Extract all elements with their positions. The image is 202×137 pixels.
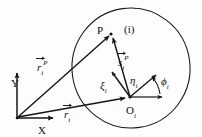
axis-xi-label: ξi (100, 76, 107, 95)
point-p-marker (109, 32, 112, 35)
angle-phi-label: ϕi (161, 72, 169, 91)
vector-ri-label: ri (64, 105, 70, 124)
vector-si-p-label: siP (118, 53, 129, 72)
body-index-label: (i) (124, 20, 134, 36)
figure-diagram: Y X P (i) Oi riP siP ri (0, 0, 202, 137)
point-p-label: P (97, 21, 103, 37)
vector-ri-p-label: riP (37, 58, 48, 77)
axis-x-label: X (38, 121, 46, 137)
global-origin-marker (16, 117, 19, 120)
angle-phi-arc (152, 77, 160, 94)
axis-xi-line (112, 72, 130, 97)
origin-oi-label: Oi (126, 101, 136, 120)
axis-y-label: Y (11, 74, 19, 90)
axis-eta-label: ηi (130, 71, 137, 90)
vector-ri-line (18, 98, 125, 117)
origin-oi-marker (128, 95, 131, 98)
